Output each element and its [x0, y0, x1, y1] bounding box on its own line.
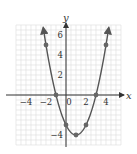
x-axis-label: x — [126, 90, 132, 101]
x-tick-label: 4 — [103, 97, 108, 107]
data-point — [54, 93, 59, 98]
parabola-chart: −4−2024−4246 x y — [0, 0, 137, 154]
x-tick-label: 2 — [83, 97, 88, 107]
y-tick-label: 6 — [58, 30, 63, 40]
data-point — [94, 93, 99, 98]
data-point — [44, 43, 49, 48]
data-point — [74, 133, 79, 138]
x-tick-label: −2 — [40, 97, 53, 107]
y-tick-label: −4 — [50, 130, 63, 140]
y-tick-label: 2 — [58, 70, 63, 80]
x-tick-label: −4 — [20, 97, 33, 107]
data-point — [64, 123, 69, 128]
y-tick-label: 4 — [58, 50, 63, 60]
data-point — [84, 123, 89, 128]
x-tick-label: 0 — [66, 97, 71, 107]
data-point — [104, 43, 109, 48]
y-axis-label: y — [62, 12, 69, 23]
